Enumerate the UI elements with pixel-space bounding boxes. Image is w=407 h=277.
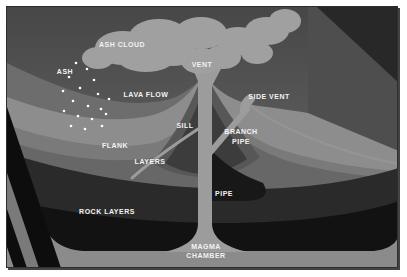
- volcano-diagram-canvas: ASH CLOUD ASH VENT LAVA FLOW SIDE VENT S…: [7, 7, 397, 267]
- label-ash-cloud: ASH CLOUD: [99, 41, 145, 48]
- label-magma-chamber-line1: MAGMA: [191, 243, 221, 250]
- label-magma-chamber-line2: CHAMBER: [186, 252, 225, 259]
- volcano-diagram-figure: ASH CLOUD ASH VENT LAVA FLOW SIDE VENT S…: [6, 6, 398, 268]
- label-branch-pipe-line2: PIPE: [232, 138, 250, 145]
- label-sill: SILL: [176, 122, 193, 129]
- label-pipe: PIPE: [215, 190, 233, 197]
- label-branch-pipe-line1: BRANCH: [224, 128, 257, 135]
- label-layers: LAYERS: [135, 158, 166, 165]
- label-vent: VENT: [192, 61, 213, 68]
- label-flank: FLANK: [102, 142, 128, 149]
- label-side-vent: SIDE VENT: [248, 93, 290, 100]
- label-rock-layers: ROCK LAYERS: [79, 208, 135, 215]
- label-ash: ASH: [57, 68, 73, 75]
- label-lava-flow: LAVA FLOW: [124, 91, 169, 98]
